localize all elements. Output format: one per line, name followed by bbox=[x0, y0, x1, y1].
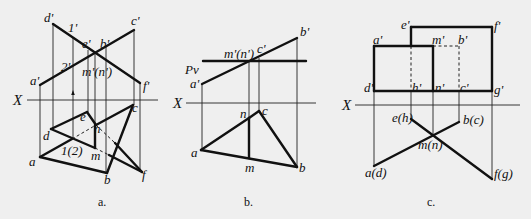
point-label: n bbox=[240, 106, 247, 121]
point-label: b' bbox=[100, 36, 110, 51]
point-label: g' bbox=[494, 82, 504, 97]
point-label: c' bbox=[131, 13, 140, 28]
panel-caption: a. bbox=[98, 195, 106, 209]
visible-edge bbox=[201, 118, 249, 150]
arrow-up-icon bbox=[71, 90, 75, 95]
point-label: m bbox=[245, 160, 254, 175]
point-label: c' bbox=[460, 80, 469, 95]
visible-edge bbox=[107, 105, 133, 173]
point-label: 2' bbox=[61, 59, 71, 74]
visible-edge bbox=[109, 155, 142, 172]
point-label: m bbox=[91, 148, 100, 163]
point-label: a' bbox=[373, 32, 383, 47]
x-axis-label: X bbox=[341, 97, 352, 113]
point-label: f' bbox=[143, 78, 150, 93]
point-label: a bbox=[29, 154, 36, 169]
panel-b-plane-cut: XPvb'm'(n')c'a'ncambb. bbox=[172, 24, 316, 209]
point-label: b' bbox=[300, 24, 310, 39]
visible-edge bbox=[115, 143, 142, 172]
point-label: e' bbox=[401, 17, 410, 32]
point-label: a bbox=[191, 145, 198, 160]
x-axis-label: X bbox=[12, 92, 23, 108]
plane-pv-label: Pv bbox=[184, 62, 199, 77]
panel-caption: c. bbox=[427, 195, 435, 209]
point-label: d bbox=[43, 128, 50, 143]
point-label: f bbox=[142, 167, 148, 182]
x-axis-label: X bbox=[172, 95, 183, 111]
point-label: m(n) bbox=[418, 137, 443, 152]
point-label: b bbox=[299, 160, 306, 175]
point-label: d' bbox=[364, 80, 374, 95]
point-label: m' bbox=[432, 32, 444, 47]
point-label: n' bbox=[435, 80, 445, 95]
point-label: b bbox=[104, 172, 111, 187]
point-label: e(h) bbox=[392, 110, 413, 125]
point-label: e bbox=[80, 109, 86, 124]
point-label: b(c) bbox=[463, 112, 484, 127]
point-label: h' bbox=[412, 80, 422, 95]
visible-edge bbox=[249, 111, 259, 118]
point-label: a' bbox=[30, 73, 40, 88]
point-label: m'(n') bbox=[82, 64, 112, 79]
point-label: b' bbox=[458, 32, 468, 47]
panel-a-intersecting-triangles: Xd'1'e'b'c'2'm'(n')a'f'cend1(2)mabfa. bbox=[12, 10, 158, 209]
projection-figure: Xd'1'e'b'c'2'm'(n')a'f'cend1(2)mabfa. XP… bbox=[0, 0, 531, 219]
point-label: n bbox=[94, 121, 101, 136]
hidden-edge bbox=[72, 125, 96, 139]
point-label: a' bbox=[190, 76, 200, 91]
point-label: f(g) bbox=[494, 166, 513, 181]
point-label: c' bbox=[257, 41, 266, 56]
point-label: c bbox=[132, 100, 138, 115]
visible-edge bbox=[259, 111, 297, 167]
point-label: a(d) bbox=[365, 165, 387, 180]
point-label: m'(n') bbox=[224, 46, 254, 61]
point-label: e' bbox=[82, 36, 91, 51]
point-label: d' bbox=[44, 10, 54, 25]
panel-c-rectangles-projection: Xe'f'a'm'b'd'h'n'c'g'e(h)b(c)m(n)a(d)f(g… bbox=[341, 17, 520, 209]
panel-caption: b. bbox=[244, 195, 253, 209]
point-label: f' bbox=[494, 18, 501, 33]
point-label: 1(2) bbox=[61, 143, 83, 158]
point-label: c bbox=[262, 103, 268, 118]
point-label: 1' bbox=[68, 20, 78, 35]
